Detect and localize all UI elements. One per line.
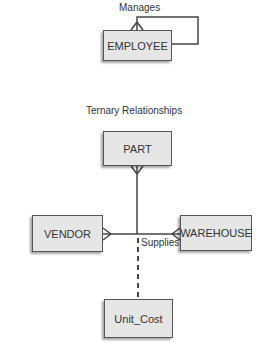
entity-unit-cost: Unit_Cost: [104, 299, 173, 338]
supplies-label: Supplies: [141, 237, 179, 248]
entity-warehouse: WAREHOUSE: [180, 215, 252, 251]
entity-part: PART: [103, 131, 172, 166]
entity-vendor: VENDOR: [32, 215, 103, 252]
ternary-lines: [103, 166, 180, 240]
entity-employee: EMPLOYEE: [103, 30, 172, 61]
manages-label: Manages: [119, 2, 160, 13]
ternary-title: Ternary Relationships: [86, 105, 182, 116]
